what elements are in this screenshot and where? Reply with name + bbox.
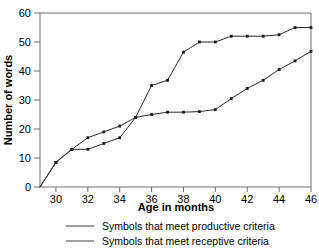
series-data-point xyxy=(230,97,233,100)
y-tick-label: 40 xyxy=(19,65,31,77)
series-data-point xyxy=(166,111,169,114)
y-axis-ticks xyxy=(34,13,40,187)
y-tick-label: 10 xyxy=(19,152,31,164)
series-data-point xyxy=(118,125,121,128)
data-series-group xyxy=(40,26,312,187)
x-tick-label: 42 xyxy=(241,193,253,205)
series-data-point xyxy=(294,59,297,62)
series-line xyxy=(40,28,311,188)
series-data-point xyxy=(262,79,265,82)
y-tick-label: 50 xyxy=(19,36,31,48)
y-axis-tick-labels: 0102030405060 xyxy=(19,7,31,193)
series-data-point xyxy=(262,35,265,38)
data-series xyxy=(40,26,312,187)
y-axis: 0102030405060 xyxy=(19,7,40,193)
x-tick-label: 32 xyxy=(82,193,94,205)
series-data-point xyxy=(230,35,233,38)
series-data-point xyxy=(182,111,185,114)
y-tick-label: 0 xyxy=(25,181,31,193)
data-series xyxy=(40,50,312,187)
series-data-point xyxy=(246,87,249,90)
series-data-point xyxy=(118,136,121,139)
chart-figure: 0102030405060 303234363840424446 Age in … xyxy=(0,0,319,252)
series-data-point xyxy=(70,148,73,151)
series-data-point xyxy=(310,26,313,29)
series-data-point xyxy=(246,35,249,38)
series-data-point xyxy=(198,110,201,113)
series-data-point xyxy=(102,131,105,134)
x-tick-label: 44 xyxy=(273,193,285,205)
series-data-point xyxy=(150,113,153,116)
series-data-point xyxy=(86,136,89,139)
series-data-point xyxy=(310,50,313,53)
x-tick-label: 34 xyxy=(114,193,126,205)
series-data-point xyxy=(55,161,58,164)
line-chart: 0102030405060 303234363840424446 Age in … xyxy=(0,0,319,252)
series-data-point xyxy=(214,108,217,111)
series-data-point xyxy=(182,51,185,54)
x-axis-ticks xyxy=(56,187,311,192)
chart-legend: Symbols that meet productive criteriaSym… xyxy=(66,220,275,247)
series-data-point xyxy=(150,84,153,87)
series-data-point xyxy=(214,41,217,44)
y-tick-label: 30 xyxy=(19,94,31,106)
series-data-point xyxy=(102,142,105,145)
series-line xyxy=(40,51,311,187)
x-axis-title: Age in months xyxy=(138,201,214,213)
x-tick-label: 46 xyxy=(305,193,317,205)
series-data-point xyxy=(166,79,169,82)
series-data-point xyxy=(198,41,201,44)
y-tick-label: 60 xyxy=(19,7,31,19)
x-tick-label: 30 xyxy=(50,193,62,205)
series-data-point xyxy=(134,116,137,119)
series-data-point xyxy=(86,148,89,151)
series-data-point xyxy=(294,26,297,29)
legend-item-label: Symbols that meet productive criteria xyxy=(102,220,275,232)
legend-item-label: Symbols that meet receptive criteria xyxy=(102,235,269,247)
series-data-point xyxy=(278,68,281,71)
series-data-point xyxy=(278,33,281,36)
y-axis-title: Number of words xyxy=(2,55,14,145)
y-tick-label: 20 xyxy=(19,123,31,135)
